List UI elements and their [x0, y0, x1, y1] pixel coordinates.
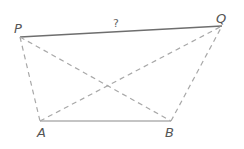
geometry-diagram: P Q A B ?: [0, 0, 244, 149]
label-a: A: [36, 125, 46, 140]
segment-aq: [40, 26, 222, 121]
label-b: B: [165, 125, 174, 140]
label-p: P: [14, 21, 22, 36]
segment-pa: [20, 37, 40, 121]
segment-bq: [171, 26, 222, 121]
unknown-distance-label: ?: [113, 17, 119, 30]
segment-pb: [20, 37, 171, 121]
segment-pq: [20, 26, 222, 37]
label-q: Q: [216, 11, 226, 26]
